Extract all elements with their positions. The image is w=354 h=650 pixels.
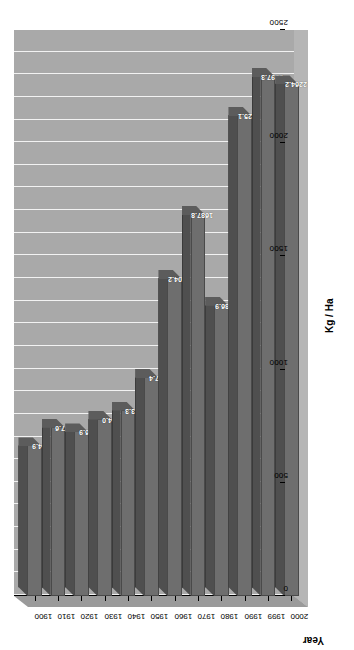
value-axis-tick	[280, 369, 285, 370]
bar-front-face	[237, 115, 251, 596]
bar	[18, 445, 32, 596]
bar-front-face	[51, 427, 65, 596]
bar-top-face	[182, 214, 191, 596]
bar	[65, 431, 79, 596]
bar-top-face	[18, 445, 27, 596]
bar	[228, 115, 242, 596]
bar-front-face	[191, 214, 205, 596]
bar-front-face	[284, 83, 298, 596]
value-axis-label: 0	[283, 584, 288, 593]
category-axis-tick	[35, 596, 36, 601]
bar-top-face	[65, 431, 74, 596]
bar-chart-figure: 664.9747.6726.9784.0823.3967.41404.21687…	[0, 0, 354, 650]
category-axis-tick	[245, 596, 246, 601]
category-axis-tick	[221, 596, 222, 601]
value-axis-label: 1500	[269, 244, 288, 253]
bar-top-face	[42, 427, 51, 596]
bar-front-face	[214, 305, 228, 596]
bar-top-face	[88, 419, 97, 596]
bar	[158, 278, 172, 596]
bar	[135, 377, 149, 596]
bar-value-label: 1687.8	[191, 212, 213, 219]
value-axis-title: Kg / Ha	[324, 299, 335, 333]
chart-canvas: 664.9747.6726.9784.0823.3967.41404.21687…	[0, 0, 354, 650]
category-axis-label: 2000	[291, 612, 341, 621]
bar-top-face	[158, 278, 167, 596]
value-axis-tick	[280, 142, 285, 143]
bar-front-face	[74, 431, 88, 596]
bar-top-face	[275, 83, 284, 596]
bar-top-face	[252, 76, 261, 596]
value-axis-label: 500	[274, 471, 288, 480]
bar-front-face	[97, 419, 111, 596]
category-axis-tick	[128, 596, 129, 601]
gridline	[14, 51, 294, 52]
category-axis-tick	[58, 596, 59, 601]
value-axis-label: 2500	[269, 18, 288, 27]
bar	[252, 76, 266, 596]
category-axis-tick	[175, 596, 176, 601]
category-axis-tick	[81, 596, 82, 601]
bar	[205, 305, 219, 596]
value-axis-tick	[280, 482, 285, 483]
category-axis-tick	[105, 596, 106, 601]
bar-top-face	[228, 115, 237, 596]
value-axis-tick	[280, 29, 285, 30]
bar-top-face	[135, 377, 144, 596]
bar	[88, 419, 102, 596]
bar-front-face	[167, 278, 181, 596]
bar-top-face	[112, 410, 121, 596]
bar	[42, 427, 56, 596]
bar	[275, 83, 289, 596]
category-axis-tick	[268, 596, 269, 601]
bar-front-face	[27, 445, 41, 596]
category-axis-title: Year	[303, 635, 324, 646]
value-axis-tick	[280, 255, 285, 256]
category-axis-tick	[198, 596, 199, 601]
category-axis-tick	[291, 596, 292, 601]
bar	[182, 214, 196, 596]
bar-front-face	[261, 76, 275, 596]
bar-front-face	[144, 377, 158, 596]
category-axis-tick	[151, 596, 152, 601]
value-axis-label: 2000	[269, 131, 288, 140]
bar-front-face	[121, 410, 135, 596]
bar	[112, 410, 126, 596]
bar-value-label: 2264.2	[285, 81, 307, 88]
gridline	[14, 28, 294, 29]
bar-top-face	[205, 305, 214, 596]
value-axis-label: 1000	[269, 358, 288, 367]
value-axis-tick	[280, 595, 285, 596]
